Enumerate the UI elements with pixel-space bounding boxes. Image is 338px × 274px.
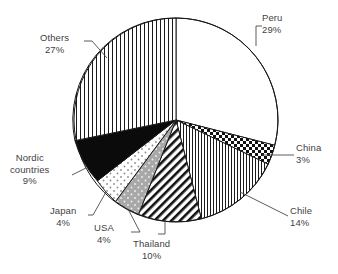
slice-label-usa: USA 4% (94, 222, 114, 245)
slice-label-japan-name: Japan (50, 205, 76, 216)
slice-label-nordic-name-line1: Nordic (16, 152, 44, 163)
slice-label-thailand-name: Thailand (133, 238, 170, 249)
leader-line-thailand (158, 220, 165, 234)
slice-label-nordic-countries: Nordic countries 9% (10, 152, 49, 187)
pie-slice-others[interactable] (73, 18, 176, 141)
slice-label-japan: Japan 4% (50, 205, 76, 228)
slice-label-nordic-name-line2: countries (10, 164, 49, 176)
slice-label-others-name: Others (40, 32, 69, 43)
slice-label-peru-pct: 29% (262, 24, 282, 36)
slice-label-chile-pct: 14% (290, 217, 312, 229)
slice-label-usa-pct: 4% (94, 234, 114, 246)
slice-label-japan-pct: 4% (50, 217, 76, 229)
slice-label-thailand: Thailand 10% (133, 238, 170, 261)
pie-chart: Peru 29% China 3% Chile 14% Thailand 10%… (0, 0, 338, 274)
slice-label-china-pct: 3% (296, 154, 321, 166)
leader-line-japan (88, 192, 106, 215)
slice-label-china: China 3% (296, 142, 321, 165)
slice-label-peru-name: Peru (262, 12, 282, 23)
slice-label-others: Others 27% (40, 32, 69, 55)
slice-label-nordic-pct: 9% (10, 175, 49, 187)
slice-label-others-pct: 27% (40, 44, 69, 56)
pie-slices (73, 18, 278, 222)
leader-line-chile (240, 192, 288, 216)
slice-label-thailand-pct: 10% (133, 250, 170, 262)
leader-line-nordic (72, 168, 86, 175)
slice-label-peru: Peru 29% (262, 12, 282, 35)
slice-label-usa-name: USA (94, 222, 114, 233)
slice-label-chile: Chile 14% (290, 205, 312, 228)
slice-label-china-name: China (296, 142, 321, 153)
slice-label-chile-name: Chile (290, 205, 312, 216)
